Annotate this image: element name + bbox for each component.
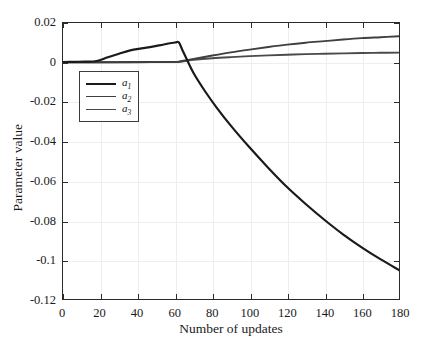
series-line-a3: [63, 53, 399, 63]
legend-swatch-a1: [86, 83, 116, 85]
x-tick-label: 60: [168, 307, 181, 320]
x-tick-label: 80: [206, 307, 219, 320]
legend-label-a3: a3: [122, 103, 131, 117]
legend-swatch-a2: [86, 96, 116, 97]
x-tick-label: 180: [391, 307, 410, 320]
y-axis-label: Parameter value: [11, 88, 25, 248]
x-tick-label: 0: [59, 307, 65, 320]
series-lines: [63, 23, 399, 299]
x-tick-label: 40: [131, 307, 144, 320]
x-tick-label: 100: [240, 307, 259, 320]
x-tick-label: 120: [278, 307, 297, 320]
plot-area: a1 a2 a3: [62, 22, 400, 300]
figure-canvas: Parameter value Number of updates 020406…: [0, 0, 424, 345]
y-tick-label: 0: [50, 55, 56, 68]
x-tick-label: 140: [316, 307, 335, 320]
x-tick-label: 160: [353, 307, 372, 320]
x-tick-label: 20: [93, 307, 106, 320]
legend-swatch-a3: [86, 109, 116, 110]
x-axis-label: Number of updates: [62, 322, 400, 336]
y-tick-label: -0.12: [30, 294, 56, 307]
y-tick-label: -0.02: [30, 95, 56, 108]
legend: a1 a2 a3: [79, 71, 139, 122]
y-tick-label: 0.02: [34, 16, 56, 29]
y-tick-label: -0.08: [30, 214, 56, 227]
y-tick-label: -0.04: [30, 135, 56, 148]
y-tick-label: -0.1: [36, 254, 56, 267]
series-line-a2: [63, 36, 399, 62]
legend-item-a3[interactable]: a3: [86, 103, 131, 116]
y-tick-label: -0.06: [30, 175, 56, 188]
